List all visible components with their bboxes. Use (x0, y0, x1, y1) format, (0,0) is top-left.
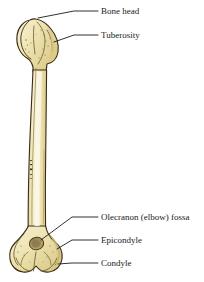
label-olecranon-fossa: Olecranon (elbow) fossa (101, 212, 189, 222)
leader-epicondyle (57, 240, 98, 249)
label-epicondyle: Epicondyle (101, 235, 142, 245)
leader-tuberosity (54, 35, 98, 42)
label-tuberosity: Tuberosity (101, 30, 140, 40)
label-condyle: Condyle (101, 258, 132, 268)
humerus-diagram: Bone head Tuberosity Olecranon (elbow) f… (0, 0, 204, 282)
label-bone-head: Bone head (101, 6, 139, 16)
leader-bone-head (38, 11, 98, 18)
leader-condyle (58, 263, 98, 264)
